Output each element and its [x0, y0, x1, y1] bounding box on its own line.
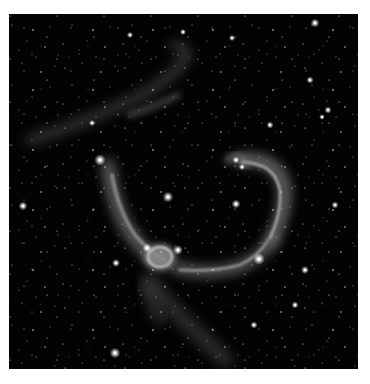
star: [231, 37, 233, 39]
nebula-photo: [9, 14, 358, 369]
star: [269, 124, 271, 126]
star: [253, 324, 255, 326]
star: [241, 166, 243, 168]
star: [146, 247, 149, 250]
star: [166, 195, 169, 198]
star: [327, 109, 329, 111]
star: [22, 205, 25, 208]
star: [304, 269, 307, 272]
star: [176, 248, 179, 251]
star: [115, 262, 118, 265]
star: [91, 122, 93, 124]
star: [98, 158, 102, 162]
star: [294, 304, 296, 306]
nebula-image-canvas: [9, 14, 358, 369]
star: [334, 204, 336, 206]
star: [321, 116, 323, 118]
star: [257, 257, 261, 261]
star: [129, 34, 131, 36]
star: [314, 22, 317, 25]
background-stars-secondary: [9, 14, 358, 369]
star: [309, 79, 311, 81]
star: [235, 159, 237, 161]
star: [113, 351, 116, 354]
star: [182, 31, 184, 33]
star: [235, 203, 238, 206]
